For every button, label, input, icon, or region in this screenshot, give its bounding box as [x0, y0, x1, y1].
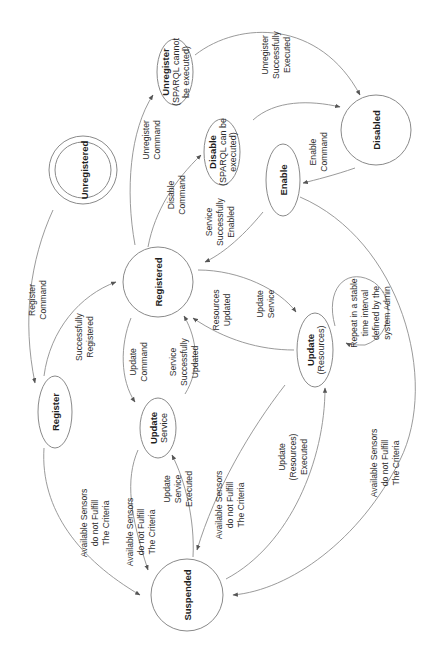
- svg-text:time interval: time interval: [360, 290, 370, 336]
- edge-unregister-command: [130, 95, 153, 245]
- edge-labels: Register Command Successfully Registered…: [27, 30, 401, 566]
- svg-text:Disable: Disable: [166, 180, 176, 209]
- label-update-service-executed: Update Service Executed: [162, 471, 194, 507]
- svg-text:do not Fulfill: do not Fulfill: [90, 500, 100, 546]
- svg-text:Unregister: Unregister: [260, 35, 270, 75]
- node-registered: Registered: [123, 247, 193, 317]
- svg-text:Successfully: Successfully: [215, 197, 225, 245]
- label-unregister-command: Unregister Command: [141, 120, 162, 160]
- svg-text:Update: Update: [162, 475, 172, 503]
- svg-text:Enabled: Enabled: [226, 206, 236, 238]
- svg-text:Successfully: Successfully: [271, 30, 281, 78]
- svg-text:Updated: Updated: [190, 346, 200, 379]
- svg-text:Successfully: Successfully: [74, 312, 84, 360]
- label-resources-updated: Resources Updated: [211, 289, 232, 330]
- node-update-service: Update Service: [140, 398, 176, 458]
- node-enable: Enable: [266, 144, 300, 216]
- svg-text:Executed: Executed: [299, 439, 309, 475]
- svg-text:Service: Service: [173, 474, 183, 503]
- svg-text:Update: Update: [128, 348, 138, 376]
- svg-text:Command: Command: [177, 175, 187, 215]
- label-register-command: Register Command: [27, 280, 48, 320]
- node-disable-line2: executed): [228, 132, 238, 172]
- node-unregister: Unregister (SPARQL cannot be executed): [157, 37, 193, 106]
- svg-text:do not Fulfill: do not Fulfill: [380, 440, 390, 486]
- label-disable-command: Disable Command: [166, 175, 187, 215]
- svg-text:The Criteria: The Criteria: [236, 482, 246, 527]
- label-resources-to-suspended: Available Sensors do not Fulfill The Cri…: [214, 471, 246, 540]
- svg-text:The Criteria: The Criteria: [101, 500, 111, 545]
- node-update-resources-line1: (Resources): [316, 325, 326, 374]
- label-resources-executed: Update (Resources) Executed: [277, 433, 309, 480]
- node-disabled: Disabled: [341, 95, 411, 165]
- svg-text:Command: Command: [319, 132, 329, 172]
- svg-text:Available Sensors: Available Sensors: [79, 489, 89, 558]
- svg-text:Register: Register: [27, 284, 37, 316]
- svg-text:Service: Service: [266, 289, 276, 318]
- svg-text:Update: Update: [255, 290, 265, 318]
- label-successfully-registered: Successfully Registered: [74, 312, 95, 360]
- label-repeat-loop: Repeat in a stable time interval defined…: [349, 278, 392, 347]
- label-service-updated: Service Successfully Updated: [168, 337, 200, 385]
- node-update-resources: Update (Resources): [297, 313, 333, 387]
- svg-text:Command: Command: [139, 342, 149, 382]
- svg-text:defined by the: defined by the: [371, 286, 381, 340]
- node-unregistered: Unregistered: [49, 136, 117, 204]
- node-disable: Disable (SPARQL can be executed): [204, 118, 240, 186]
- edge-resources-updated: [193, 318, 294, 350]
- svg-text:Available Sensors: Available Sensors: [214, 471, 224, 540]
- edge-enable-command: [303, 168, 355, 183]
- node-unregistered-label: Unregistered: [79, 141, 90, 200]
- node-enable-label: Enable: [278, 164, 289, 195]
- svg-text:Updated: Updated: [222, 294, 232, 327]
- node-register-label: Register: [50, 393, 61, 431]
- node-unregister-line1: (SPARQL cannot: [171, 37, 181, 106]
- node-disable-title: Disable: [207, 135, 218, 169]
- svg-text:Available Sensors: Available Sensors: [125, 498, 135, 567]
- svg-text:system Admin: system Admin: [382, 286, 392, 340]
- svg-text:Repeat in a stable: Repeat in a stable: [349, 278, 359, 347]
- label-unregister-executed: Unregister Successfully Executed: [260, 30, 292, 78]
- svg-text:Executed: Executed: [282, 37, 292, 73]
- label-update-command: Update Command: [128, 342, 149, 382]
- label-service-enabled: Service Successfully Enabled: [204, 197, 236, 245]
- edge-disable-to-disabled: [253, 103, 340, 120]
- node-disable-line1: (SPARQL can be: [218, 118, 228, 186]
- node-unregister-title: Unregister: [160, 48, 171, 96]
- svg-text:The Criteria: The Criteria: [147, 509, 157, 554]
- node-registered-label: Registered: [153, 257, 164, 306]
- svg-text:Unregister: Unregister: [141, 120, 151, 160]
- node-suspended-label: Suspended: [182, 569, 193, 620]
- svg-text:The Criteria: The Criteria: [391, 440, 401, 485]
- edge-enable-to-suspended: [233, 197, 415, 595]
- label-update-service-to-suspended: Available Sensors do not Fulfill The Cri…: [125, 498, 157, 567]
- svg-text:Update: Update: [277, 443, 287, 471]
- node-update-service-title: Update: [148, 412, 159, 444]
- node-update-service-line1: Service: [159, 413, 169, 443]
- svg-text:Executed: Executed: [184, 471, 194, 507]
- svg-text:Available Sensors: Available Sensors: [369, 429, 379, 498]
- state-diagram: Unregistered Unregister (SPARQL cannot b…: [0, 0, 431, 651]
- svg-text:Enable: Enable: [308, 138, 318, 165]
- svg-text:Resources: Resources: [211, 289, 221, 330]
- node-register: Register: [38, 376, 72, 448]
- node-unregister-line2: be executed): [181, 46, 191, 98]
- svg-text:do not Fulfill: do not Fulfill: [136, 509, 146, 555]
- node-suspended: Suspended: [151, 559, 223, 631]
- label-register-to-suspended: Available Sensors do not Fulfill The Cri…: [79, 489, 111, 558]
- svg-text:Service: Service: [168, 347, 178, 376]
- svg-text:(Resources): (Resources): [288, 433, 298, 480]
- node-disabled-label: Disabled: [371, 110, 382, 150]
- label-update-service: Update Service: [255, 289, 276, 318]
- svg-text:Successfully: Successfully: [179, 337, 189, 385]
- label-enable-to-suspended: Available Sensors do not Fulfill The Cri…: [369, 429, 401, 498]
- node-update-resources-title: Update: [305, 334, 316, 366]
- svg-text:Command: Command: [38, 280, 48, 320]
- svg-text:Registered: Registered: [85, 316, 95, 358]
- svg-text:do not Fulfill: do not Fulfill: [225, 482, 235, 528]
- label-enable-command: Enable Command: [308, 132, 329, 172]
- svg-text:Service: Service: [204, 207, 214, 236]
- svg-text:Command: Command: [152, 120, 162, 160]
